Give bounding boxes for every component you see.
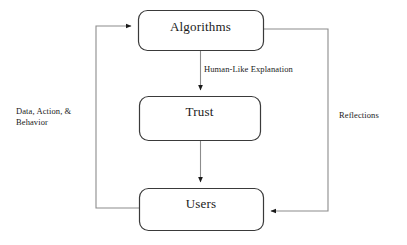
edge-label-data-action-behavior-line-1: Data, Action, & (16, 106, 102, 117)
node-label-trust: Trust (139, 104, 260, 120)
edge-algorithms-to-users (263, 29, 328, 211)
diagram-canvas: Algorithms Trust Users Human-Like Explan… (0, 0, 407, 245)
node-label-algorithms: Algorithms (138, 19, 263, 35)
edge-algorithms-to-users-path (263, 29, 328, 211)
edge-label-human-like-explanation: Human-Like Explanation (204, 64, 293, 75)
edge-users-to-algorithms (96, 26, 139, 208)
edge-label-data-action-behavior: Data, Action, & Behavior (16, 106, 102, 128)
node-label-users: Users (139, 196, 263, 212)
edge-users-to-algorithms-path (96, 26, 139, 208)
edge-label-data-action-behavior-line-2: Behavior (16, 117, 102, 128)
edge-label-reflections: Reflections (339, 110, 379, 121)
